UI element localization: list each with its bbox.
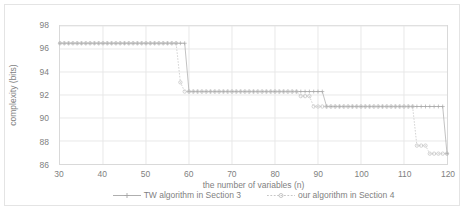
x-tick-120: 120 — [428, 170, 465, 179]
circle-marker — [267, 191, 295, 200]
y-tick-96: 96 — [5, 44, 49, 53]
y-tick-92: 92 — [5, 91, 49, 100]
data-series-layer — [60, 26, 447, 164]
x-tick-30: 30 — [39, 170, 79, 179]
y-tick-90: 90 — [5, 114, 49, 123]
y-tick-94: 94 — [5, 67, 49, 76]
chart-legend: TW algorithm in Section 3our algorithm i… — [59, 191, 448, 200]
x-tick-50: 50 — [125, 170, 165, 179]
legend-item-our-algorithm[interactable]: our algorithm in Section 4 — [267, 191, 394, 200]
x-tick-110: 110 — [385, 170, 425, 179]
x-axis-label: the number of variables (n) — [59, 180, 448, 190]
x-tick-60: 60 — [169, 170, 209, 179]
legend-item-tw-algorithm[interactable]: TW algorithm in Section 3 — [113, 191, 241, 200]
x-tick-80: 80 — [255, 170, 295, 179]
legend-label: TW algorithm in Section 3 — [144, 191, 241, 200]
y-tick-86: 86 — [5, 161, 49, 170]
series-our-algorithm — [58, 42, 448, 156]
plot-area — [59, 25, 448, 165]
x-tick-70: 70 — [212, 170, 252, 179]
chart-frame: complexity (bits) the number of variable… — [4, 4, 460, 206]
chart-figure: complexity (bits) the number of variable… — [0, 0, 465, 214]
y-tick-88: 88 — [5, 137, 49, 146]
legend-label: our algorithm in Section 4 — [298, 191, 394, 200]
plus-marker — [113, 191, 141, 200]
x-tick-100: 100 — [342, 170, 382, 179]
x-tick-40: 40 — [82, 170, 122, 179]
x-tick-90: 90 — [298, 170, 338, 179]
y-tick-98: 98 — [5, 21, 49, 30]
series-tw-algorithm — [58, 41, 449, 155]
